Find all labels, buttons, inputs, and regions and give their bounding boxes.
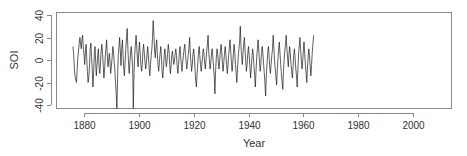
x-tick-label: 1900 [128, 120, 151, 131]
y-axis: -40-2002040 [34, 10, 52, 113]
y-tick-label: 20 [34, 33, 45, 45]
x-tick-label: 1960 [292, 120, 315, 131]
y-tick-label: -20 [34, 76, 45, 91]
soi-time-series-chart: 1880190019201940196019802000 -40-2002040… [0, 0, 467, 156]
x-tick-label: 2000 [402, 120, 425, 131]
x-tick-label: 1940 [238, 120, 261, 131]
x-axis: 1880190019201940196019802000 [73, 113, 425, 131]
x-tick-label: 1880 [73, 120, 96, 131]
x-tick-label: 1920 [183, 120, 206, 131]
x-tick-label: 1980 [347, 120, 370, 131]
y-tick-label: -40 [34, 98, 45, 113]
y-axis-label: SOI [8, 51, 20, 70]
y-tick-label: 40 [34, 10, 45, 22]
soi-data-line [73, 21, 314, 109]
x-axis-label: Year [243, 137, 266, 149]
plot-frame [57, 13, 452, 109]
y-tick-label: 0 [34, 57, 45, 63]
